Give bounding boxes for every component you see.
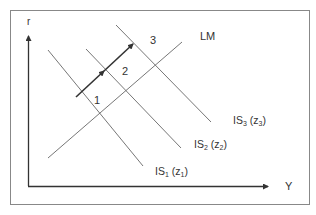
is2-curve [86, 49, 181, 148]
is3-label: IS3 (z3) [233, 114, 266, 127]
lm-curve [48, 42, 182, 158]
is2-label: IS2 (z2) [194, 138, 227, 151]
equilibrium-label-1: 1 [94, 94, 100, 106]
lm-label: LM [200, 30, 215, 42]
equilibrium-label-3: 3 [150, 34, 156, 46]
x-axis-label: Y [285, 180, 293, 192]
shift-arrow-2-3 [104, 44, 133, 71]
equilibrium-label-2: 2 [122, 65, 128, 77]
y-axis-label: r [27, 16, 31, 27]
is3-curve [116, 25, 211, 122]
is-lm-diagram: r Y LM IS1 (z1) IS2 (z2) IS3 (z3) 1 2 3 [0, 0, 316, 215]
is1-curve [48, 50, 143, 166]
is1-label: IS1 (z1) [155, 165, 188, 178]
